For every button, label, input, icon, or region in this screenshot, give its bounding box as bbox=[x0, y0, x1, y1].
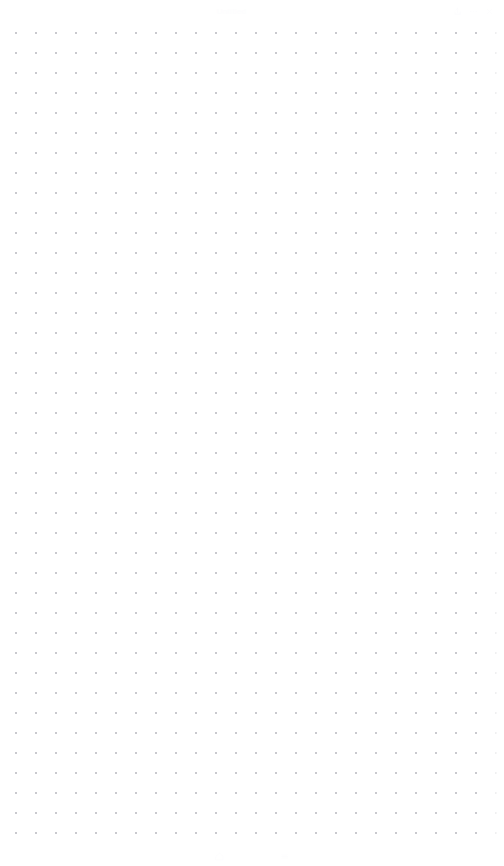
window-title: Untitled bbox=[10, 7, 453, 16]
top-chrome-bar: Untitled bbox=[0, 0, 504, 22]
more-icon[interactable] bbox=[469, 7, 478, 16]
share-icon[interactable] bbox=[453, 7, 462, 16]
bottom-chrome-bar bbox=[0, 846, 504, 866]
dot-grid-canvas[interactable] bbox=[0, 0, 504, 866]
menu-icon[interactable] bbox=[280, 852, 289, 861]
canvas-scroll-area[interactable] bbox=[0, 0, 504, 866]
app-window: Untitled bbox=[0, 0, 504, 866]
close-icon[interactable] bbox=[485, 7, 494, 16]
window-actions bbox=[453, 7, 494, 16]
home-icon[interactable] bbox=[215, 852, 224, 861]
